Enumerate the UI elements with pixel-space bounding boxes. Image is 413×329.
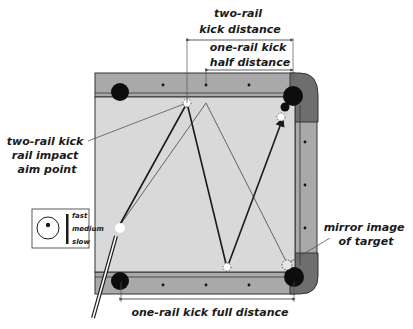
cue-ball (115, 223, 125, 233)
diamond (304, 227, 307, 230)
speed-medium: medium (72, 225, 104, 233)
speed-fast: fast (72, 212, 88, 220)
two-rail-kick-distance-label: two-rail kick distance (199, 7, 281, 36)
speed-bar (66, 214, 69, 244)
diamond (162, 284, 165, 287)
speed-legend: fast medium slow (32, 209, 104, 248)
diamond (248, 84, 251, 87)
ghost-ball-bottom-rail (223, 263, 231, 271)
mirror-image-label: mirror image of target (324, 221, 409, 248)
top-side-pocket (111, 83, 129, 101)
bottom-side-pocket (111, 272, 129, 290)
kick-shot-diagram: two-rail kick distance one-rail kick hal… (0, 0, 413, 329)
speed-slow: slow (72, 238, 90, 246)
diamond (248, 284, 251, 287)
diamond (304, 141, 307, 144)
diamond (205, 284, 208, 287)
target-ball (281, 103, 290, 112)
table-cloth (95, 97, 295, 272)
right-rail (295, 120, 317, 255)
diamond (304, 184, 307, 187)
diamond (162, 84, 165, 87)
ghost-ball-target (277, 113, 285, 121)
one-rail-half-distance-label: one-rail kick half distance (210, 41, 291, 69)
full-distance-label: one-rail kick full distance (131, 306, 289, 319)
aim-point-label: two-rail kick rail impact aim point (7, 135, 88, 176)
